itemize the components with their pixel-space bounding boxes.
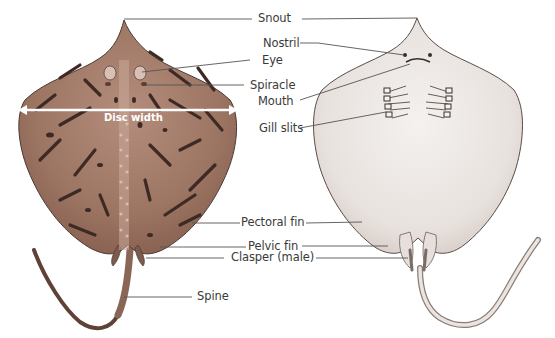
label-mouth: Mouth [258,95,294,108]
label-snout: Snout [258,12,291,25]
ventral-view [314,18,539,325]
label-eye: Eye [262,54,283,67]
label-disc-width: Disc width [104,112,163,123]
label-spine: Spine [197,290,229,303]
label-nostril: Nostril [263,37,300,50]
label-gill-slits: Gill slits [259,122,303,135]
label-spiracle: Spiracle [250,79,295,92]
label-pectoral-fin: Pectoral fin [241,216,304,229]
stingray-anatomy-diagram: Snout Nostril Eye Spiracle Mouth Gill sl… [0,0,555,338]
label-clasper: Clasper (male) [231,251,314,264]
ventral-disc [314,18,523,253]
dorsal-view [18,20,238,328]
